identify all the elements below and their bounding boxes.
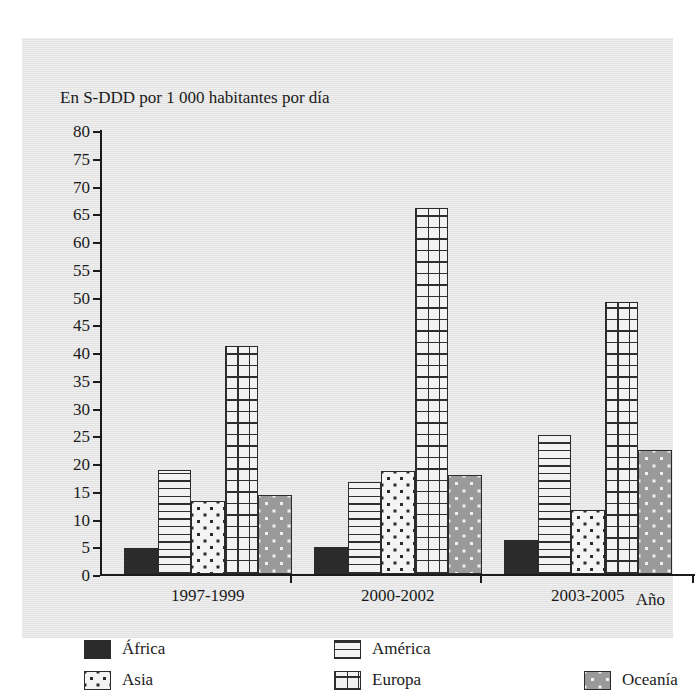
y-tick-mark: [93, 270, 100, 272]
legend-item-oceanía: Oceanía: [584, 670, 678, 690]
legend-label: América: [372, 639, 431, 659]
x-axis-end-cap: [692, 576, 694, 583]
legend-swatch-áfrica: [84, 640, 111, 659]
x-category-label-2003-2005: 2003-2005: [551, 586, 625, 606]
y-tick-mark: [93, 381, 100, 383]
y-tick-label: 60: [73, 233, 90, 253]
y-tick-mark: [93, 214, 100, 216]
bar-oceanía-2000-2002: [448, 475, 482, 574]
bar-áfrica-2000-2002: [314, 547, 348, 574]
y-tick-mark: [93, 131, 100, 133]
bar-áfrica-1997-1999: [124, 548, 158, 574]
bar-asia-2000-2002: [381, 471, 415, 574]
y-tick-label: 40: [73, 344, 90, 364]
cropped-title-strip: [0, 0, 695, 16]
y-tick-mark: [93, 492, 100, 494]
bar-europa-1997-1999: [225, 346, 259, 574]
y-tick-label: 30: [73, 400, 90, 420]
y-tick-mark: [93, 159, 100, 161]
plot-area: 05101520253035404550556065707580 1997-19…: [100, 130, 695, 576]
legend-label: África: [122, 639, 165, 659]
y-tick-mark: [93, 187, 100, 189]
x-category-label-2000-2002: 2000-2002: [361, 586, 435, 606]
scanned-chart-panel: En S-DDD por 1 000 habitantes por día 05…: [22, 38, 673, 638]
legend-swatch-oceanía: [584, 671, 611, 690]
y-tick-mark: [93, 242, 100, 244]
bar-américa-2003-2005: [538, 435, 572, 574]
y-tick-label: 5: [82, 538, 91, 558]
y-tick-label: 15: [73, 483, 90, 503]
legend-label: Oceanía: [622, 670, 678, 690]
y-tick-mark: [93, 325, 100, 327]
bar-américa-2000-2002: [348, 482, 382, 574]
bar-oceanía-1997-1999: [258, 495, 292, 574]
y-tick-mark: [93, 520, 100, 522]
y-tick-label: 10: [73, 511, 90, 531]
legend-swatch-asia: [84, 671, 111, 690]
y-tick-mark: [93, 464, 100, 466]
y-tick-label: 80: [73, 122, 90, 142]
x-category-label-1997-1999: 1997-1999: [171, 586, 245, 606]
bar-asia-1997-1999: [191, 501, 225, 574]
y-tick-mark: [93, 353, 100, 355]
y-tick-label: 75: [73, 150, 90, 170]
legend-item-asia: Asia: [84, 670, 153, 690]
y-tick-mark: [93, 436, 100, 438]
y-tick-mark: [93, 547, 100, 549]
legend-item-europa: Europa: [334, 670, 421, 690]
x-axis-title: Año: [636, 590, 665, 610]
legend-swatch-américa: [334, 640, 361, 659]
y-tick-label: 55: [73, 261, 90, 281]
y-tick-label: 70: [73, 178, 90, 198]
legend-item-áfrica: África: [84, 639, 165, 659]
chart-legend: ÁfricaAméricaAsiaEuropaOceanía: [84, 639, 684, 694]
y-tick-label: 45: [73, 316, 90, 336]
bar-europa-2000-2002: [415, 208, 449, 574]
x-axis-line: [100, 574, 695, 576]
bar-group-container: [102, 130, 695, 574]
y-tick-label: 0: [82, 566, 91, 586]
y-tick-mark: [93, 575, 100, 577]
y-tick-label: 25: [73, 427, 90, 447]
bar-oceanía-2003-2005: [638, 450, 672, 574]
bar-asia-2003-2005: [571, 510, 605, 574]
legend-label: Europa: [372, 670, 421, 690]
y-tick-label: 35: [73, 372, 90, 392]
y-tick-label: 50: [73, 289, 90, 309]
legend-item-américa: América: [334, 639, 431, 659]
y-tick-mark: [93, 298, 100, 300]
bar-europa-2003-2005: [605, 302, 639, 574]
bar-américa-1997-1999: [158, 470, 192, 574]
y-tick-label: 65: [73, 205, 90, 225]
bar-áfrica-2003-2005: [504, 540, 538, 574]
y-tick-label: 20: [73, 455, 90, 475]
y-tick-mark: [93, 409, 100, 411]
legend-swatch-europa: [334, 671, 361, 690]
y-axis-caption: En S-DDD por 1 000 habitantes por día: [60, 88, 330, 108]
legend-label: Asia: [122, 670, 153, 690]
group-separator: [290, 576, 292, 583]
group-separator: [480, 576, 482, 583]
